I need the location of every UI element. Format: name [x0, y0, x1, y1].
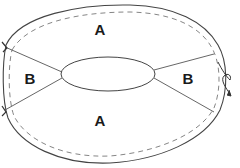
inner-ellipse: [61, 57, 155, 91]
region-label-left: B: [25, 71, 36, 86]
region-label-bottom: A: [95, 113, 106, 128]
annulus-diagram: [0, 0, 240, 168]
region-label-right: B: [183, 71, 194, 86]
region-label-top: A: [95, 22, 106, 37]
divider-upper-left: [5, 47, 62, 72]
divider-upper-right: [154, 54, 214, 70]
